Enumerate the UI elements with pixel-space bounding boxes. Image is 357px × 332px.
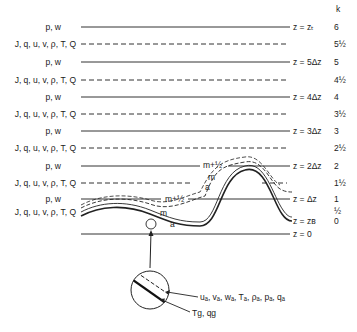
z-label: z = Δz xyxy=(293,194,317,204)
z-label: z = zₜ xyxy=(293,22,314,32)
k-label: 5½ xyxy=(334,39,346,49)
level-1: p, w z = Δz 1 xyxy=(45,194,339,204)
k-label: 0 xyxy=(334,216,339,226)
k-label: 4 xyxy=(334,92,339,102)
z-label: z = 0 xyxy=(293,229,312,239)
k-label: ½ xyxy=(334,206,341,216)
level-6: p, w z = zₜ 6 xyxy=(45,22,339,32)
a-label-lower: a xyxy=(170,219,175,229)
k-label: 1 xyxy=(334,194,339,204)
arrow-head-icon xyxy=(149,230,154,236)
k-label: 3 xyxy=(334,126,339,136)
left-label: p, w xyxy=(45,194,61,204)
level-5: p, w z = 5Δz 5 xyxy=(45,57,339,67)
vertical-grid-diagram: k p, w z = zₜ 6 J, q, u, v, ρ, T, Q 5½ p… xyxy=(0,0,357,332)
left-label: J, q, u, v, ρ, T, Q xyxy=(15,39,77,49)
left-label: p, w xyxy=(45,22,61,32)
left-label: p, w xyxy=(45,161,61,171)
k-label: 5 xyxy=(334,57,339,67)
m-label-lower: m xyxy=(160,208,167,218)
surface-point-circle xyxy=(146,219,156,229)
left-label: p, w xyxy=(45,126,61,136)
left-label: p, w xyxy=(45,92,61,102)
inset-magnifier xyxy=(130,271,198,312)
k-label: 3½ xyxy=(334,109,346,119)
z-label: z = 2Δz xyxy=(293,161,322,171)
level-2: p, w z = 2Δz 2 xyxy=(45,161,339,171)
a-label-upper: a xyxy=(205,182,210,192)
k-label: 2 xyxy=(334,161,339,171)
ground-surface-curve xyxy=(81,169,292,226)
m-plus-half-label-lower: m+½ xyxy=(165,194,184,204)
level-4: p, w z = 4Δz 4 xyxy=(45,92,339,102)
level-3-half: J, q, u, v, ρ, T, Q 3½ xyxy=(15,109,346,119)
level-5-half: J, q, u, v, ρ, T, Q 5½ xyxy=(15,39,346,49)
level-ground: z = 0 xyxy=(81,229,312,239)
terrain-curves xyxy=(81,157,292,226)
left-label: J, q, u, v, ρ, T, Q xyxy=(15,75,77,85)
k-label: 6 xyxy=(334,22,339,32)
z-label: z = 3Δz xyxy=(293,126,322,136)
left-label: J, q, u, v, ρ, T, Q xyxy=(15,109,77,119)
z-label: z = 5Δz xyxy=(293,57,322,67)
k-label: 1½ xyxy=(334,178,346,188)
z-label: z = 4Δz xyxy=(293,92,322,102)
pointer-arrow xyxy=(150,232,151,268)
k-label: 2½ xyxy=(334,143,346,153)
k-label: 4½ xyxy=(334,75,346,85)
z-label: z = zʙ xyxy=(293,216,316,226)
air-pointer xyxy=(167,292,198,297)
level-4-half: J, q, u, v, ρ, T, Q 4½ xyxy=(15,75,346,85)
m-label-upper: m xyxy=(208,172,215,182)
ground-pointer xyxy=(162,300,190,312)
left-label: J, q, u, v, ρ, T, Q xyxy=(15,143,77,153)
left-label: p, w xyxy=(45,57,61,67)
k-header: k xyxy=(336,4,341,14)
level-2-half: J, q, u, v, ρ, T, Q 2½ xyxy=(15,143,346,153)
left-label: J, q, u, v, ρ, T, Q xyxy=(15,207,77,217)
level-3: p, w z = 3Δz 3 xyxy=(45,126,339,136)
surface-variables-label: uₐ, vₐ, wₐ, Tₐ, ρₐ, pₐ, qₐ xyxy=(200,292,286,302)
m-level-curve xyxy=(81,162,292,208)
m-plus-half-label-upper: m+½ xyxy=(203,160,222,170)
ground-variables-label: Tɡ, qɡ xyxy=(192,308,216,318)
level-1-half: J, q, u, v, ρ, T, Q 1½ xyxy=(15,178,346,188)
level-zb: z = zʙ 0 xyxy=(293,216,339,226)
left-label: J, q, u, v, ρ, T, Q xyxy=(15,178,77,188)
